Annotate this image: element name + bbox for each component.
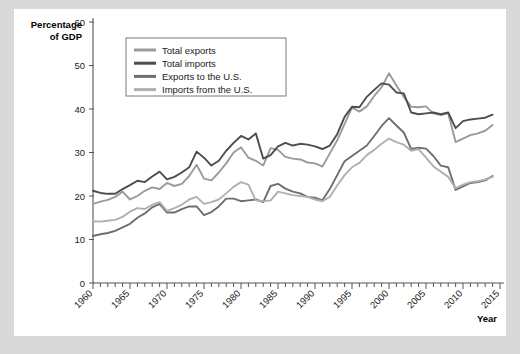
x-tick-label: 1990 <box>294 288 317 311</box>
x-tick-label: 2010 <box>442 288 465 311</box>
data-series-group <box>93 73 493 236</box>
y-tick-label: 50 <box>74 60 85 71</box>
y-tick-label: 0 <box>80 278 85 289</box>
x-axis-ticks: 1960196519701975198019851990199520002005… <box>72 283 502 310</box>
x-tick-label: 1980 <box>220 288 243 311</box>
x-tick-label: 1965 <box>109 288 132 311</box>
y-tick-label: 60 <box>74 17 85 28</box>
x-tick-label: 1975 <box>183 288 206 311</box>
x-tick-label: 2000 <box>368 288 391 311</box>
y-tick-label: 10 <box>74 234 85 245</box>
page-background: Percentage of GDP 0102030405060 19601965… <box>0 0 520 354</box>
chart-legend: Total exportsTotal importsExports to the… <box>126 38 286 96</box>
legend-label-1: Total exports <box>162 45 216 56</box>
y-axis-ticks: 0102030405060 <box>74 17 94 289</box>
x-tick-label: 1960 <box>72 288 95 311</box>
y-tick-label: 30 <box>74 147 85 158</box>
y-tick-label: 20 <box>74 191 85 202</box>
x-tick-label: 1995 <box>331 288 354 311</box>
y-axis-title-line2: of GDP <box>50 31 83 42</box>
x-tick-label: 2015 <box>479 288 502 311</box>
y-tick-label: 40 <box>74 104 85 115</box>
series-line-total-imports <box>93 83 493 193</box>
x-tick-label: 1985 <box>257 288 280 311</box>
line-chart: Percentage of GDP 0102030405060 19601965… <box>0 0 520 354</box>
legend-label-3: Exports to the U.S. <box>162 71 242 82</box>
legend-label-2: Total imports <box>162 58 216 69</box>
x-tick-label: 1970 <box>146 288 169 311</box>
x-axis-title: Year <box>477 313 497 324</box>
series-line-imports-from-the-u-s <box>93 139 493 222</box>
legend-label-4: Imports from the U.S. <box>162 84 252 95</box>
x-tick-label: 2005 <box>405 288 428 311</box>
